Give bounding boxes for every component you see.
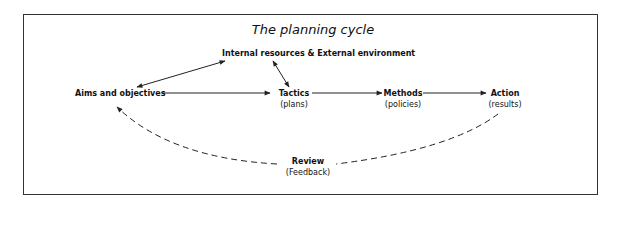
- arrow-resources-tactics: [273, 61, 289, 87]
- node-methods-label: Methods: [380, 88, 426, 99]
- arrow-feedback-dashed: [336, 114, 498, 164]
- node-tactics-sub: (plans): [274, 99, 314, 110]
- node-review-sub: (Feedback): [280, 167, 336, 178]
- node-action-sub: (results): [484, 99, 526, 110]
- node-tactics-label: Tactics: [274, 88, 314, 99]
- arrow-aims-resources: [137, 61, 225, 87]
- node-aims-label: Aims and objectives: [75, 89, 166, 98]
- node-aims: Aims and objectives: [75, 88, 166, 99]
- node-action-label: Action: [484, 88, 526, 99]
- node-methods-sub: (policies): [380, 99, 426, 110]
- arrow-feedback-dashed-2: [117, 107, 277, 164]
- node-resources: Internal resources & External environmen…: [222, 48, 415, 59]
- node-review-label: Review: [280, 156, 336, 167]
- node-tactics: Tactics (plans): [274, 88, 314, 110]
- node-review: Review (Feedback): [280, 156, 336, 178]
- node-action: Action (results): [484, 88, 526, 110]
- node-resources-label: Internal resources & External environmen…: [222, 49, 415, 58]
- node-methods: Methods (policies): [380, 88, 426, 110]
